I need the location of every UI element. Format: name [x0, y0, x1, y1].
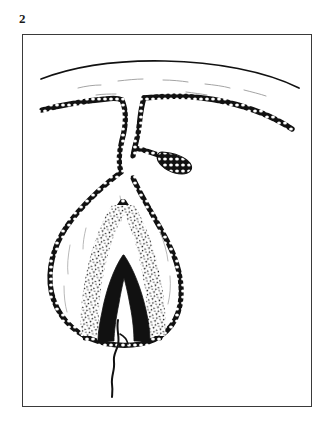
figure-root: 2 [0, 0, 326, 425]
plate-frame-border [22, 34, 312, 407]
figure-number: 2 [19, 12, 26, 26]
